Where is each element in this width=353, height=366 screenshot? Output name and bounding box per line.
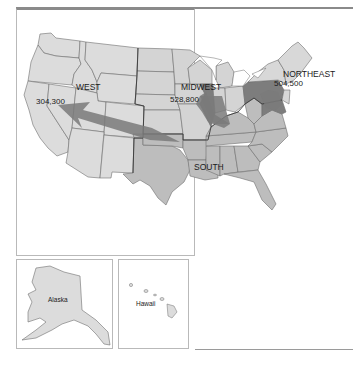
region-value-west: 304,300: [36, 97, 65, 106]
region-value-midwest: 528,800: [170, 95, 199, 104]
region-label-midwest: MIDWEST: [181, 82, 221, 92]
state-wyoming: [97, 73, 137, 104]
state-north-dakota: [137, 48, 174, 72]
alaska-shape: [22, 266, 110, 345]
region-label-west: WEST: [76, 82, 101, 92]
state-new-mexico: [100, 135, 134, 178]
inset-label-alaska: Alaska: [48, 296, 68, 303]
inset-label-hawaii: Hawaii: [136, 300, 156, 307]
region-label-south: SOUTH: [194, 162, 224, 172]
us-map: WEST 304,300 MIDWEST 528,800 NORTHEAST 5…: [0, 0, 353, 366]
region-value-northeast: 504,500: [274, 79, 303, 88]
state-florida: [224, 170, 276, 210]
region-label-northeast: NORTHEAST: [283, 69, 335, 79]
state-arkansas: [183, 140, 208, 160]
state-arizona: [66, 128, 104, 178]
state-south-dakota: [136, 71, 175, 95]
